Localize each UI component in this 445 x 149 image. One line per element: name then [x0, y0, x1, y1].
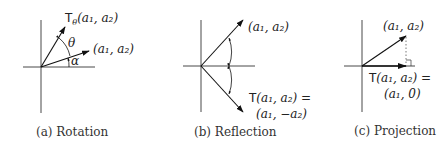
- linear-transformations-figure: Tθ(a₁, a₂) (a₁, a₂) θ α (a) Rotation (a₁…: [0, 0, 445, 149]
- alpha-label: α: [71, 54, 79, 68]
- alpha-arc: [68, 58, 69, 67]
- panel-rotation: Tθ(a₁, a₂) (a₁, a₂) θ α (a) Rotation: [23, 11, 134, 139]
- theta-label: θ: [68, 36, 76, 50]
- panel-projection: (a₁, a₂) T(a₁, a₂) = (a₁, 0) (c) Project…: [344, 19, 436, 138]
- rotated-vector-label: Tθ(a₁, a₂): [64, 11, 118, 27]
- original-vector-label: (a₁, a₂): [383, 19, 424, 33]
- image-label-line1: T(a₁, a₂) =: [368, 71, 431, 85]
- image-label-line1: T(a₁, a₂) =: [248, 91, 311, 105]
- image-label-line2: (a₁, 0): [384, 87, 421, 101]
- caption-reflection: (b) Reflection: [194, 125, 277, 139]
- original-vector-arrow: [41, 51, 89, 67]
- reflected-vector-arrow: [201, 66, 243, 112]
- reflection-arc-lower: [229, 66, 232, 94]
- original-vector-label: (a₁, a₂): [93, 42, 134, 56]
- image-label-line2: (a₁, −a₂): [256, 107, 307, 121]
- original-vector-label: (a₁, a₂): [248, 20, 289, 34]
- right-angle-marker: [406, 60, 411, 66]
- rotated-vector-arrow: [41, 27, 65, 67]
- reflection-arc-upper: [229, 38, 232, 66]
- original-vector-arrow: [362, 36, 406, 66]
- caption-rotation: (a) Rotation: [36, 125, 108, 139]
- original-vector-arrow: [201, 20, 243, 66]
- caption-projection: (c) Projection: [354, 124, 436, 138]
- panel-reflection: (a₁, a₂) T(a₁, a₂) = (a₁, −a₂) (b) Refle…: [183, 20, 311, 139]
